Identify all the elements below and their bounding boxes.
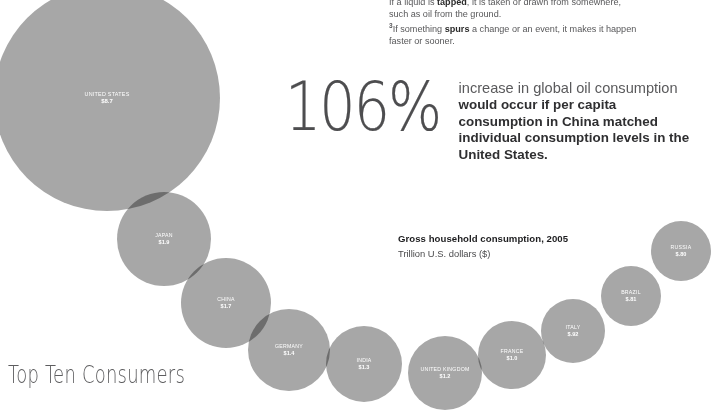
- statistic-number: 106%: [285, 74, 440, 139]
- bubble-label-name: BRAZIL: [621, 289, 641, 296]
- footnote-term-tapped: tapped: [437, 0, 467, 7]
- bubble-label-value: $1.4: [284, 350, 295, 357]
- bubble-label-value: $1.0: [507, 355, 518, 362]
- chart-caption: Gross household consumption, 2005 Trilli…: [398, 232, 568, 260]
- bubble-label-name: UNITED KINGDOM: [420, 366, 469, 373]
- footnote-3-text-post: a change or an event, it makes it happen: [469, 24, 636, 34]
- footnote-2-text-post: , it is taken or drawn from somewhere,: [467, 0, 621, 7]
- footnote-term-spurs: spurs: [445, 24, 470, 34]
- footnote-2-text-pre: If a liquid is: [389, 0, 437, 7]
- bubble-united-kingdom: UNITED KINGDOM$1.2: [408, 336, 482, 410]
- footnote-3: 3If something spurs a change or an event…: [389, 20, 693, 36]
- bubble-label-name: JAPAN: [155, 232, 173, 239]
- bubble-india: INDIA$1.3: [326, 326, 402, 402]
- bubble-russia: RUSSIA$.80: [651, 221, 711, 281]
- statistic-lead: increase in global oil consumption: [459, 80, 678, 96]
- bubble-label-value: $1.2: [440, 373, 451, 380]
- bubble-label-name: RUSSIA: [671, 244, 692, 251]
- footnote-3-text-pre: If something: [393, 24, 445, 34]
- section-title: Top Ten Consumers: [8, 360, 185, 389]
- bubble-label-value: $1.9: [159, 239, 170, 246]
- bubble-label-value: $.92: [568, 331, 579, 338]
- bubble-label-name: UNITED STATES: [85, 91, 130, 98]
- bubble-france: FRANCE$1.0: [478, 321, 546, 389]
- bubble-label-value: $1.3: [359, 364, 370, 371]
- bubble-united-states: UNITED STATES$8.7: [0, 0, 220, 211]
- bubble-label-name: FRANCE: [501, 348, 524, 355]
- footnote-2: If a liquid is tapped, it is taken or dr…: [389, 0, 693, 9]
- footnote-3-cont: faster or sooner.: [389, 36, 693, 48]
- statistic-rest: would occur if per capita consumption in…: [459, 97, 690, 161]
- bubble-label-name: CHINA: [217, 296, 234, 303]
- footnote-2-cont: such as oil from the ground.: [389, 9, 693, 21]
- bubble-label-value: $8.7: [101, 98, 113, 106]
- bubble-label-name: GERMANY: [275, 343, 303, 350]
- chart-caption-subtitle: Trillion U.S. dollars ($): [398, 247, 568, 260]
- bubble-germany: GERMANY$1.4: [248, 309, 330, 391]
- bubble-brazil: BRAZIL$.81: [601, 266, 661, 326]
- statistic-description: increase in global oil consumption would…: [459, 74, 695, 163]
- bubble-label-value: $1.7: [221, 303, 232, 310]
- bubble-italy: ITALY$.92: [541, 299, 605, 363]
- bubble-label-value: $.80: [676, 251, 687, 258]
- bubble-label-name: INDIA: [356, 357, 371, 364]
- bubble-label-value: $.81: [626, 296, 637, 303]
- bubble-label-name: ITALY: [566, 324, 581, 331]
- chart-caption-title: Gross household consumption, 2005: [398, 232, 568, 245]
- headline-block: 106% increase in global oil consumption …: [285, 74, 695, 163]
- footnotes-block: If a liquid is tapped, it is taken or dr…: [389, 0, 693, 47]
